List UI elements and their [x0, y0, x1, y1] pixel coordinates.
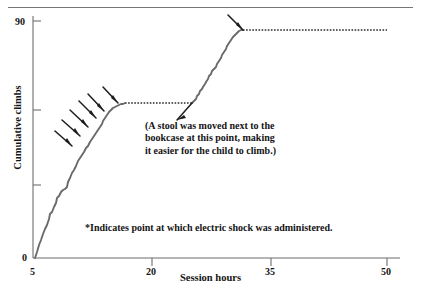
y-tick-label-0: 0: [22, 252, 27, 263]
cumulative-curve-segment-1: [35, 103, 125, 258]
cumulative-curve-segment-2: [192, 30, 243, 103]
shock-arrow-1: [55, 131, 72, 146]
figure-container: 90 0 5 20 35 50 Cumulative climbs Sessio…: [0, 0, 421, 291]
stool-annotation-arrow: [177, 103, 192, 120]
shock-arrow-5: [88, 94, 104, 111]
shock-footnote: *Indicates point at which electric shock…: [85, 222, 333, 234]
stool-annotation: (A stool was moved next to the bookcase …: [145, 120, 276, 157]
shock-arrow-2: [62, 120, 80, 136]
shock-arrow-7: [228, 15, 243, 30]
shock-arrow-4: [79, 101, 96, 118]
stool-annotation-line-2: bookcase at this point, making: [145, 132, 276, 144]
y-axis-title: Cumulative climbs: [12, 85, 23, 171]
y-tick-label-90: 90: [15, 16, 25, 27]
shock-arrow-3: [70, 110, 88, 127]
x-axis-title: Session hours: [0, 272, 421, 283]
shock-arrow-6: [103, 87, 118, 103]
stool-annotation-line-3: it easier for the child to climb.): [145, 145, 276, 157]
stool-annotation-line-1: (A stool was moved next to the: [145, 120, 276, 132]
